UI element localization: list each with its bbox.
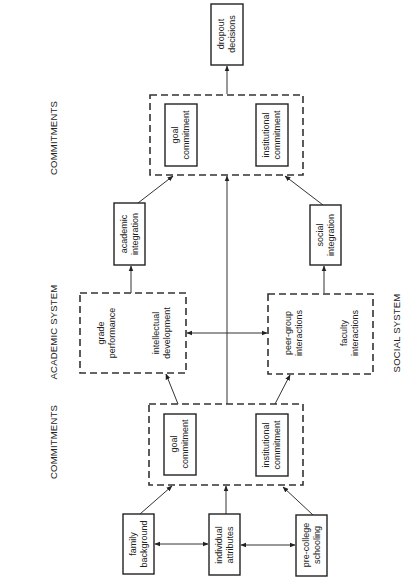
- node-label: family: [128, 532, 138, 556]
- node-label: academic: [119, 214, 129, 253]
- node-label: institutional: [261, 112, 271, 157]
- node-label: commitment: [272, 420, 282, 470]
- section-label-commitments-bottom: COMMITMENTS: [48, 405, 59, 479]
- node-label: grade: [96, 321, 106, 344]
- node-label: social: [315, 223, 325, 246]
- node-label: background: [139, 520, 149, 567]
- node-label: integration: [130, 213, 140, 255]
- node-pre-college-schooling: pre-college schooling: [296, 515, 327, 576]
- node-institutional-commitment-bottom: institutional commitment: [256, 414, 288, 476]
- section-label-commitments-top: COMMITMENTS: [48, 101, 59, 175]
- node-faculty-interactions: faculty interactions: [339, 309, 360, 356]
- node-family-background: family background: [123, 514, 154, 574]
- node-label: goal: [169, 435, 179, 452]
- node-label: commitment: [181, 110, 191, 160]
- node-goal-commitment-bottom: goal commitment: [164, 414, 196, 475]
- section-label-social-system: SOCIAL SYSTEM: [391, 294, 402, 373]
- section-label-academic-system: ACADEMIC SYSTEM: [48, 285, 59, 380]
- node-label: goal: [170, 126, 180, 143]
- node-academic-integration: academic integration: [114, 203, 145, 265]
- node-grade-performance: grade performance: [96, 308, 117, 359]
- node-label: schooling: [312, 526, 322, 564]
- node-dropout-decisions: dropout decisions: [211, 4, 243, 65]
- node-label: faculty: [339, 319, 349, 346]
- node-label: commitment: [180, 419, 190, 469]
- node-label: interactions: [294, 309, 304, 356]
- node-peer-group-interactions: peer-group interactions: [283, 309, 304, 356]
- node-label: individual: [214, 526, 224, 564]
- node-goal-commitment-top: goal commitment: [165, 104, 197, 166]
- node-label: intellectual: [151, 312, 161, 355]
- node-label: commitment: [272, 110, 282, 160]
- node-institutional-commitment-top: institutional commitment: [256, 104, 288, 166]
- node-label: dropout: [216, 18, 226, 49]
- node-label: peer-group: [283, 311, 293, 355]
- node-label: integration: [326, 214, 336, 256]
- node-label: interactions: [350, 309, 360, 356]
- node-label: institutional: [261, 422, 271, 467]
- node-intellectual-development: intellectual development: [151, 307, 172, 359]
- node-label: decisions: [227, 15, 237, 53]
- node-label: development: [162, 307, 172, 359]
- node-social-integration: social integration: [310, 205, 341, 265]
- node-label: attributes: [225, 526, 235, 564]
- tinto-dropout-model-diagram: COMMITMENTS ACADEMIC SYSTEM COMMITMENTS …: [0, 0, 415, 584]
- connectors: [131, 66, 324, 545]
- node-label: performance: [107, 308, 117, 359]
- node-label: pre-college: [301, 523, 311, 568]
- node-individual-attributes: individual attributes: [209, 514, 240, 575]
